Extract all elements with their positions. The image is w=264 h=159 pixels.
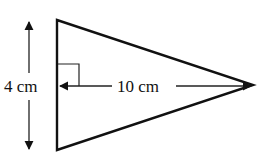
triangle-diagram: 4 cm 10 cm	[0, 0, 264, 159]
right-angle-marker	[58, 64, 79, 86]
base-label: 4 cm	[4, 77, 38, 96]
height-label: 10 cm	[117, 77, 159, 96]
